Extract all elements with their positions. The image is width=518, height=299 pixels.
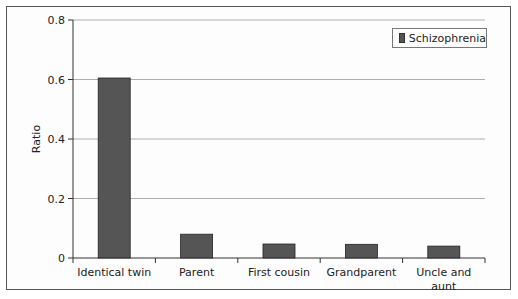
bar	[345, 244, 377, 258]
y-tick-label: 0.2	[48, 193, 66, 206]
y-tick-label: 0.4	[48, 133, 66, 146]
y-tick-label: 0.6	[48, 74, 66, 87]
x-tick-label: aunt	[431, 280, 457, 293]
x-tick-label: Identical twin	[77, 266, 151, 279]
x-tick-label: Uncle and	[416, 266, 471, 279]
legend-swatch	[399, 33, 405, 43]
bar	[428, 246, 460, 258]
legend-label: Schizophrenia	[409, 32, 486, 45]
legend: Schizophrenia	[392, 28, 487, 48]
bar	[98, 78, 130, 258]
bar	[181, 234, 213, 258]
y-tick-label: 0.8	[48, 14, 66, 27]
x-tick-label: First cousin	[248, 266, 310, 279]
x-tick-label: Parent	[179, 266, 215, 279]
bar	[263, 244, 295, 258]
y-axis-label: Ratio	[30, 125, 43, 154]
x-tick-label: Grandparent	[326, 266, 396, 279]
y-tick-label: 0	[58, 252, 65, 265]
